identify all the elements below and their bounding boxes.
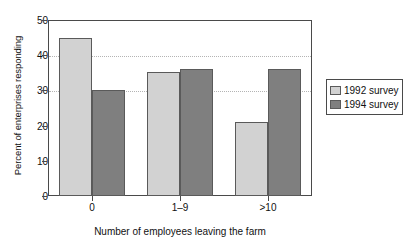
y-tick-mark-20 [42,126,47,127]
x-tick-label-1-9: 1–9 [145,202,215,213]
bar-1992-cat-1-9[interactable] [147,72,180,196]
bar-1994-cat-1-9[interactable] [180,69,213,196]
y-tick-mark-0 [42,196,47,197]
legend-swatch-1994-icon [330,100,341,109]
y-tick-mark-50 [42,20,47,21]
legend-label-1992: 1992 survey [344,85,398,96]
chart-legend: 1992 survey 1994 survey [326,79,403,115]
y-tick-mark-30 [42,90,47,91]
y-tick-mark-40 [42,55,47,56]
y-tick-mark-10 [42,161,47,162]
x-tick-label-gt10: >10 [233,202,303,213]
x-tick-mark-1-9 [180,196,181,201]
y-axis-title: Percent of enterprises responding [12,16,23,196]
bar-chart-figure: Percent of enterprises responding 50 40 … [0,0,404,248]
bar-1994-cat-0[interactable] [92,90,125,196]
x-tick-mark-gt10 [268,196,269,201]
bar-1992-cat-0[interactable] [59,38,92,196]
x-tick-label-0: 0 [57,202,127,213]
x-tick-mark-0 [92,196,93,201]
legend-label-1994: 1994 survey [344,99,398,110]
legend-item-1994[interactable]: 1994 survey [330,97,398,111]
x-axis-title: Number of employees leaving the farm [48,226,312,237]
legend-swatch-1992-icon [330,86,341,95]
bar-1992-cat-gt10[interactable] [235,122,268,196]
legend-item-1992[interactable]: 1992 survey [330,83,398,97]
bar-1994-cat-gt10[interactable] [268,69,301,196]
bars-layer [48,20,312,196]
